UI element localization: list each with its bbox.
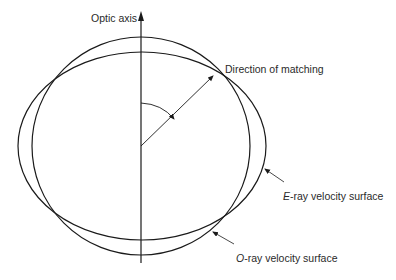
e-ray-label: E-ray velocity surface [283, 191, 383, 202]
e-ray-leader-line [265, 169, 284, 182]
direction-of-matching-vector [141, 76, 213, 146]
o-ray-label: O-ray velocity surface [236, 253, 338, 264]
o-ray-label-prefix: O [236, 252, 244, 264]
optic-axis-label: Optic axis [91, 13, 137, 24]
o-ray-leader-line [213, 232, 234, 244]
velocity-surface-diagram: Optic axis Direction of matching E-ray v… [0, 0, 396, 280]
direction-of-matching-label: Direction of matching [225, 64, 324, 75]
e-ray-velocity-surface [18, 52, 266, 240]
diagram-canvas [0, 0, 396, 280]
e-ray-label-text: -ray velocity surface [290, 190, 383, 202]
o-ray-label-text: -ray velocity surface [244, 252, 337, 264]
angle-arc [141, 103, 174, 119]
optic-axis-arrowhead-icon [138, 11, 144, 21]
e-ray-label-prefix: E [283, 190, 290, 202]
